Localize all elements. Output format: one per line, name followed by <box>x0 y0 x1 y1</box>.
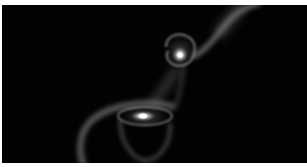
upper-galaxy <box>162 32 198 72</box>
galaxy-illustration <box>2 5 307 163</box>
lower-galaxy <box>80 103 175 163</box>
galaxy-image <box>2 5 307 163</box>
tidal-tail-upper-right <box>192 5 260 57</box>
